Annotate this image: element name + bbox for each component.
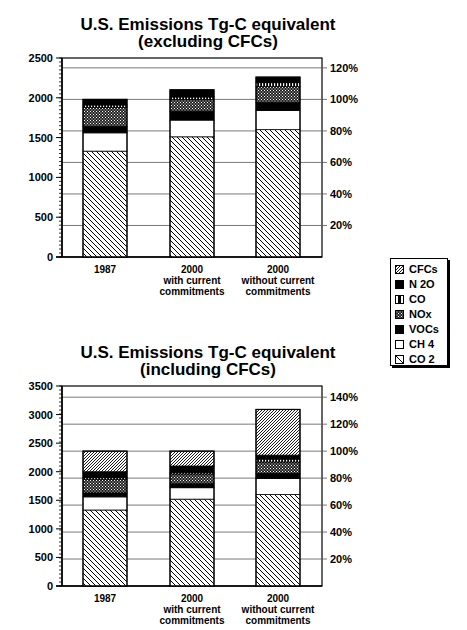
bar-segment-vocs (83, 493, 127, 497)
y2-tick-label: 100% (330, 93, 358, 105)
bar-segment-ch4 (256, 111, 300, 130)
empty-box-icon (395, 340, 404, 349)
bar-segment-n2o (256, 455, 300, 459)
bar-segment-ch4 (170, 488, 214, 499)
y-tick-label: 2500 (29, 437, 53, 449)
y-tick-label: 0 (47, 580, 53, 592)
bar-segment-ch4 (83, 133, 127, 151)
bar-segment-co2 (83, 510, 127, 586)
legend-item-nox: NOx (395, 307, 432, 321)
bar-segment-co2 (83, 151, 127, 257)
chart-top: 20%40%60%80%100%120%05001000150020002500 (29, 52, 359, 263)
legend-label: CO 2 (409, 353, 435, 365)
bar-segment-co2 (256, 130, 300, 257)
y2-tick-label: 120% (330, 418, 358, 430)
solid-black-icon (395, 325, 404, 334)
bar-segment-ch4 (83, 497, 127, 510)
y-tick-label: 2500 (29, 52, 53, 64)
bar-segment-n2o (170, 90, 214, 97)
bar-segment-co (256, 459, 300, 462)
legend-label: VOCs (409, 323, 439, 335)
y-tick-label: 1500 (29, 132, 53, 144)
y-tick-label: 3500 (29, 380, 53, 392)
y-tick-label: 1500 (29, 494, 53, 506)
chart-bottom: 20%40%60%80%100%120%140%0500100015002000… (29, 380, 359, 592)
bar-segment-co2 (256, 495, 300, 586)
y-tick-label: 1000 (29, 171, 53, 183)
y-tick-label: 500 (35, 211, 53, 223)
legend-label: CO (409, 293, 426, 305)
legend-label: NOx (409, 308, 432, 320)
x-tick-label: 2000with currentcommitments (142, 264, 242, 297)
y2-tick-label: 60% (330, 156, 352, 168)
legend-label: N 2O (409, 278, 435, 290)
y-tick-label: 0 (47, 251, 53, 263)
bar-segment-n2o (256, 77, 300, 83)
bar-segment-co2 (170, 499, 214, 586)
bar-segment-nox (83, 479, 127, 493)
legend-label: CH 4 (409, 338, 434, 350)
legend-item-co2: CO 2 (395, 352, 435, 366)
bar-segment-co2 (170, 137, 214, 257)
bar-segment-nox (170, 99, 214, 111)
hatch-pattern-icon (395, 355, 404, 364)
bar-segment-vocs (170, 484, 214, 488)
dotted-pattern-icon (395, 310, 404, 319)
legend-item-vocs: VOCs (395, 322, 439, 336)
bar-segment-vocs (170, 111, 214, 120)
legend-item-co: CO (395, 292, 426, 306)
y2-tick-label: 80% (330, 125, 352, 137)
y-tick-label: 500 (35, 551, 53, 563)
bar-segment-cfcs (256, 409, 300, 455)
cfc-pattern-icon (395, 265, 404, 274)
x-tick-label: 1987 (55, 264, 155, 275)
legend: CFCs N 2O CO NOx VOCs CH 4 CO 2 (390, 258, 448, 366)
y2-tick-label: 100% (330, 445, 358, 457)
y2-tick-label: 40% (330, 188, 352, 200)
legend-item-ch4: CH 4 (395, 337, 434, 351)
bar-segment-nox (170, 474, 214, 484)
legend-item-cfcs: CFCs (395, 262, 438, 276)
bar-segment-nox (256, 462, 300, 473)
vertical-stripe-icon (395, 295, 404, 304)
y2-tick-label: 140% (330, 391, 358, 403)
bar-segment-vocs (256, 103, 300, 111)
y-tick-label: 2000 (29, 466, 53, 478)
bar-segment-n2o (83, 99, 127, 105)
bar-segment-co (256, 83, 300, 87)
x-tick-label: 2000without currentcommitments (228, 264, 328, 297)
bar-segment-cfcs (170, 451, 214, 466)
x-tick-label: 1987 (55, 593, 155, 604)
legend-item-n2o: N 2O (395, 277, 435, 291)
y2-tick-label: 60% (330, 499, 352, 511)
y-tick-label: 2000 (29, 92, 53, 104)
y2-tick-label: 40% (330, 526, 352, 538)
bar-segment-cfcs (83, 451, 127, 472)
bar-segment-n2o (170, 466, 214, 472)
y-tick-label: 3000 (29, 409, 53, 421)
y2-tick-label: 80% (330, 472, 352, 484)
y2-tick-label: 20% (330, 219, 352, 231)
y2-tick-label: 120% (330, 62, 358, 74)
bar-segment-vocs (83, 126, 127, 132)
y2-tick-label: 20% (330, 553, 352, 565)
bar-segment-ch4 (256, 479, 300, 495)
x-tick-label: 2000without currentcommitments (228, 593, 328, 626)
legend-label: CFCs (409, 263, 438, 275)
solid-black-icon (395, 280, 404, 289)
bar-segment-ch4 (170, 120, 214, 137)
x-tick-label: 2000with currentcommitments (142, 593, 242, 626)
bar-segment-n2o (83, 472, 127, 478)
bar-segment-nox (256, 87, 300, 103)
bar-segment-vocs (256, 473, 300, 478)
y-tick-label: 1000 (29, 523, 53, 535)
bar-segment-nox (83, 107, 127, 126)
